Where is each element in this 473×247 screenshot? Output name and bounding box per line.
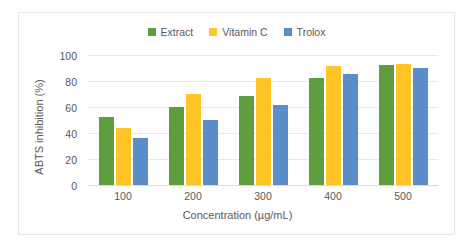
legend-item-vitamin-c: Vitamin C <box>209 27 267 38</box>
bar-trolox-200[interactable] <box>203 120 218 186</box>
bar-extract-100[interactable] <box>99 117 114 186</box>
bar-extract-500[interactable] <box>379 65 394 186</box>
legend-item-extract: Extract <box>148 27 194 38</box>
bar-vitamin-c-300[interactable] <box>256 78 271 186</box>
bar-trolox-100[interactable] <box>133 138 148 186</box>
legend-swatch-trolox <box>284 28 292 36</box>
y-axis-tick-label: 60 <box>65 103 77 114</box>
x-axis-title: Concentration (µg/mL) <box>19 209 456 221</box>
bar-trolox-300[interactable] <box>273 105 288 186</box>
bar-group-500 <box>368 56 438 186</box>
bar-extract-200[interactable] <box>169 107 184 186</box>
y-axis-tick-labels: 020406080100 <box>19 56 83 186</box>
x-axis-tick-labels: 100200300400500 <box>88 191 438 207</box>
bar-trolox-500[interactable] <box>413 68 428 186</box>
bar-vitamin-c-200[interactable] <box>186 94 201 186</box>
x-axis-tick-label: 300 <box>254 191 272 202</box>
legend-item-trolox: Trolox <box>284 27 326 38</box>
plot-area <box>88 56 438 186</box>
y-axis-title: ABTS inhibition (%) <box>33 62 45 192</box>
bar-group-200 <box>158 56 228 186</box>
legend-swatch-extract <box>148 28 156 36</box>
chart-legend: Extract Vitamin C Trolox <box>19 27 454 38</box>
bar-vitamin-c-400[interactable] <box>326 66 341 186</box>
x-axis-tick-label: 200 <box>184 191 202 202</box>
legend-swatch-vitamin-c <box>209 28 217 36</box>
legend-label-vitamin-c: Vitamin C <box>222 27 267 38</box>
bar-extract-300[interactable] <box>239 96 254 186</box>
y-axis-tick-label: 20 <box>65 155 77 166</box>
y-axis-tick-label: 40 <box>65 129 77 140</box>
y-axis-tick-label: 0 <box>71 181 77 192</box>
legend-label-trolox: Trolox <box>297 27 326 38</box>
x-axis-tick-label: 500 <box>394 191 412 202</box>
chart-container: Extract Vitamin C Trolox 020406080100 AB… <box>18 12 455 235</box>
bar-group-100 <box>88 56 158 186</box>
x-axis-tick-label: 100 <box>114 191 132 202</box>
y-axis-tick-label: 80 <box>65 77 77 88</box>
bar-vitamin-c-100[interactable] <box>116 128 131 187</box>
x-axis-line <box>88 185 438 186</box>
x-axis-tick-label: 400 <box>324 191 342 202</box>
bar-group-400 <box>298 56 368 186</box>
bar-vitamin-c-500[interactable] <box>396 64 411 186</box>
legend-label-extract: Extract <box>161 27 194 38</box>
bar-group-300 <box>228 56 298 186</box>
y-axis-tick-label: 100 <box>59 51 77 62</box>
bar-trolox-400[interactable] <box>343 74 358 186</box>
bar-extract-400[interactable] <box>309 78 324 186</box>
